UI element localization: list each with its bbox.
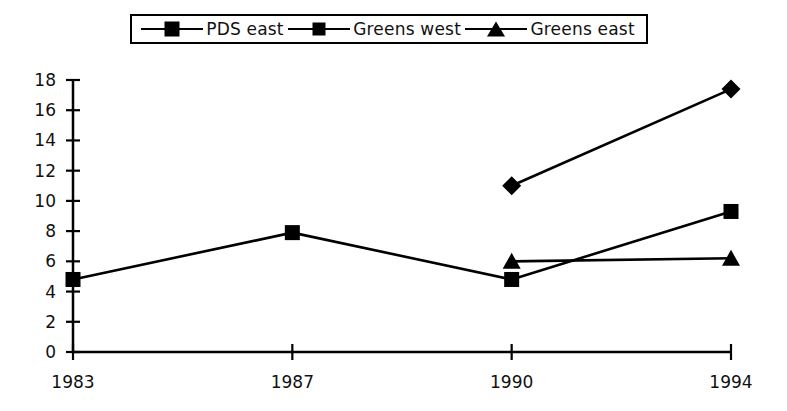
data-point-marker: [722, 80, 741, 99]
data-point-marker: [724, 204, 739, 219]
y-tick-label: 4: [26, 282, 56, 302]
x-tick-label: 1990: [477, 372, 547, 392]
data-point-marker: [285, 225, 300, 240]
y-tick-label: 18: [26, 70, 56, 90]
y-tick-label: 16: [26, 100, 56, 120]
y-tick-label: 14: [26, 130, 56, 150]
y-tick-label: 10: [26, 191, 56, 211]
data-series: [66, 80, 741, 287]
y-tick-label: 6: [26, 251, 56, 271]
data-point-marker: [66, 272, 81, 287]
x-tick-label: 1994: [696, 372, 766, 392]
data-point-marker: [504, 272, 519, 287]
x-tick-label: 1987: [257, 372, 327, 392]
x-tick-label: 1983: [38, 372, 108, 392]
y-tick-label: 0: [26, 342, 56, 362]
plot-area: [0, 0, 787, 411]
axes: [66, 80, 731, 360]
line-chart: PDS east Greens west Greens east 0246810…: [0, 0, 787, 411]
data-point-marker: [502, 176, 521, 195]
y-tick-label: 12: [26, 161, 56, 181]
y-tick-label: 8: [26, 221, 56, 241]
y-tick-label: 2: [26, 312, 56, 332]
